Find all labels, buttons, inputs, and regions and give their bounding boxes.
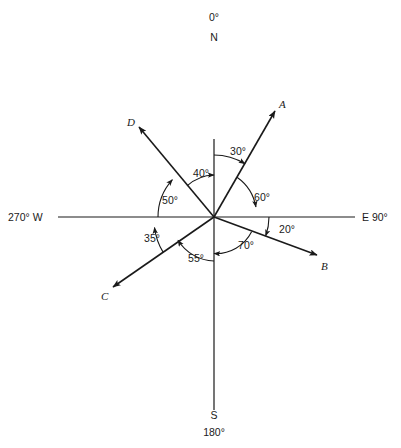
east-label: E 90° <box>362 211 388 223</box>
compass-svg-canvas: 0° N S 180° 270° W E 90° A B C D 30° 60°… <box>0 0 401 448</box>
north-degree-label: 0° <box>209 11 219 23</box>
ray-label-D: D <box>126 116 135 128</box>
south-degree-label: 180° <box>203 426 225 438</box>
south-letter-label: S <box>210 409 217 421</box>
rays-group <box>113 111 317 287</box>
angle-label-east-to-B: 20° <box>279 223 295 235</box>
ray-label-C: C <box>101 290 109 302</box>
angle-label-south-to-C: 55° <box>188 252 204 264</box>
angle-label-D-to-north: 40° <box>193 167 209 179</box>
angle-label-north-to-A: 30° <box>230 145 246 157</box>
angle-label-A-to-east: 60° <box>254 191 270 203</box>
angle-label-C-to-west: 35° <box>144 232 160 244</box>
arc-east-to-B <box>266 217 269 236</box>
ray-label-A: A <box>278 98 286 110</box>
angle-label-west-to-D: 50° <box>162 194 178 206</box>
ray-B-line <box>214 217 317 255</box>
axes-group <box>58 139 355 410</box>
west-label: 270° W <box>8 211 43 223</box>
ray-label-B: B <box>321 260 328 272</box>
compass-diagram: 0° N S 180° 270° W E 90° A B C D 30° 60°… <box>0 0 401 448</box>
angle-labels-group: 30° 60° 20° 70° 55° 35° 50° 40° <box>144 145 295 264</box>
north-letter-label: N <box>210 31 218 43</box>
cardinal-labels-group: 0° N S 180° 270° W E 90° <box>8 11 388 438</box>
angle-label-B-to-south: 70° <box>238 239 254 251</box>
